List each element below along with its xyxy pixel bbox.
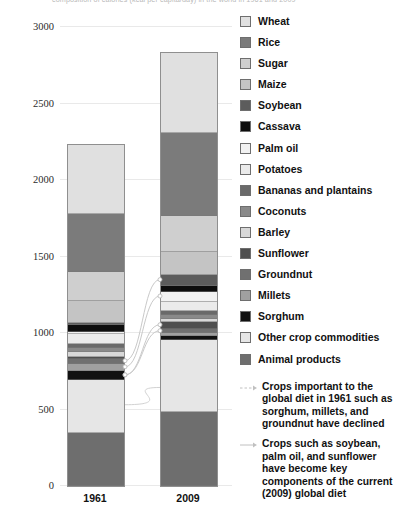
bar-segment[interactable] — [68, 380, 124, 433]
legend-item-potatoes[interactable]: Potatoes — [240, 162, 407, 183]
legend-swatch-icon — [240, 100, 251, 111]
bar-segment[interactable] — [68, 301, 124, 323]
legend-swatch-icon — [240, 37, 251, 48]
dashed-arrow-icon — [240, 384, 258, 396]
legend-item-sorghum[interactable]: Sorghum — [240, 309, 407, 330]
stacked-bar-2009[interactable] — [160, 52, 218, 487]
bar-segment[interactable] — [161, 340, 217, 412]
connector-line — [125, 280, 160, 361]
legend-swatch-icon — [240, 311, 251, 322]
legend-label: Coconuts — [258, 204, 306, 218]
legend-label: Bananas and plantains — [258, 183, 372, 197]
legend-swatch-icon — [240, 79, 251, 90]
bar-segment[interactable] — [161, 322, 217, 329]
annotation-note: Crops important to the global diet in 19… — [240, 381, 407, 431]
legend-label: Other crop commodities — [258, 330, 379, 344]
chart-root: composition of calories (kcal per capita… — [0, 0, 407, 513]
legend-item-groundnut[interactable]: Groundnut — [240, 267, 407, 288]
gridline — [60, 26, 232, 27]
legend-swatch-icon — [240, 164, 251, 175]
legend-item-sunflower[interactable]: Sunflower — [240, 246, 407, 267]
bar-segment[interactable] — [161, 412, 217, 486]
legend-item-cassava[interactable]: Cassava — [240, 119, 407, 140]
bar-segment[interactable] — [68, 325, 124, 332]
legend-label: Potatoes — [258, 162, 302, 176]
bar-segment[interactable] — [161, 292, 217, 301]
legend-label: Millets — [258, 288, 291, 302]
bar-segment[interactable] — [161, 252, 217, 275]
stacked-bar-1961[interactable] — [67, 144, 125, 487]
legend-label: Rice — [258, 35, 280, 49]
y-tick-label: 0 — [49, 480, 54, 491]
legend-label: Cassava — [258, 119, 301, 133]
legend-item-maize[interactable]: Maize — [240, 77, 407, 98]
legend-swatch-icon — [240, 121, 251, 132]
legend-item-bananas-and-plantains[interactable]: Bananas and plantains — [240, 183, 407, 204]
legend-label: Barley — [258, 225, 290, 239]
legend-item-palm-oil[interactable]: Palm oil — [240, 141, 407, 162]
legend-swatch-icon — [240, 354, 251, 365]
annotation-text: Crops such as soybean, palm oil, and sun… — [262, 438, 402, 501]
connector-line — [125, 331, 160, 375]
y-tick-label: 2000 — [33, 174, 54, 185]
bar-segment[interactable] — [68, 272, 124, 301]
legend-item-wheat[interactable]: Wheat — [240, 14, 407, 35]
y-tick-label: 1500 — [33, 250, 54, 261]
legend-label: Sugar — [258, 56, 288, 70]
y-tick-label: 1000 — [33, 327, 54, 338]
bar-segment[interactable] — [161, 302, 217, 311]
legend-item-barley[interactable]: Barley — [240, 225, 407, 246]
annotation-text: Crops important to the global diet in 19… — [262, 381, 402, 431]
bar-segment[interactable] — [161, 216, 217, 252]
bar-segment[interactable] — [68, 214, 124, 271]
legend-swatch-icon — [240, 269, 251, 280]
solid-arrow-icon — [240, 441, 258, 453]
legend-swatch-icon — [240, 290, 251, 301]
bar-segment[interactable] — [161, 275, 217, 286]
legend-item-animal-products[interactable]: Animal products — [240, 352, 407, 373]
y-tick-label: 500 — [38, 403, 54, 414]
y-tick-label: 3000 — [33, 21, 54, 32]
bar-segment[interactable] — [161, 133, 217, 216]
legend-item-sugar[interactable]: Sugar — [240, 56, 407, 77]
bar-segment[interactable] — [68, 371, 124, 380]
x-label-2009: 2009 — [153, 492, 223, 504]
legend-swatch-icon — [240, 248, 251, 259]
bar-segment[interactable] — [68, 433, 124, 486]
legend-label: Maize — [258, 77, 287, 91]
legend-swatch-icon — [240, 185, 251, 196]
connector-line — [125, 387, 160, 404]
legend-item-millets[interactable]: Millets — [240, 288, 407, 309]
chart-title: composition of calories (kcal per capita… — [52, 0, 402, 4]
bar-segment[interactable] — [68, 334, 124, 344]
bar-segment[interactable] — [161, 53, 217, 133]
legend-swatch-icon — [240, 227, 251, 238]
legend-label: Palm oil — [258, 141, 298, 155]
legend-item-rice[interactable]: Rice — [240, 35, 407, 56]
bar-segment[interactable] — [68, 145, 124, 215]
legend-swatch-icon — [240, 16, 251, 27]
legend-swatch-icon — [240, 58, 251, 69]
legend: WheatRiceSugarMaizeSoybeanCassavaPalm oi… — [240, 14, 407, 501]
legend-swatch-icon — [240, 143, 251, 154]
x-label-1961: 1961 — [60, 492, 130, 504]
legend-swatch-icon — [240, 206, 251, 217]
legend-label: Animal products — [258, 352, 341, 366]
legend-label: Sunflower — [258, 246, 309, 260]
legend-label: Wheat — [258, 14, 290, 28]
plot-area: 300025002000150010005000 1961 2009 — [60, 20, 230, 490]
legend-item-other-crop-commodities[interactable]: Other crop commodities — [240, 330, 407, 351]
y-tick-label: 2500 — [33, 97, 54, 108]
legend-label: Soybean — [258, 98, 302, 112]
bar-segment[interactable] — [68, 364, 124, 371]
legend-label: Sorghum — [258, 309, 304, 323]
legend-label: Groundnut — [258, 267, 312, 281]
legend-item-soybean[interactable]: Soybean — [240, 98, 407, 119]
annotation-note: Crops such as soybean, palm oil, and sun… — [240, 438, 407, 501]
legend-swatch-icon — [240, 332, 251, 343]
legend-item-coconuts[interactable]: Coconuts — [240, 204, 407, 225]
